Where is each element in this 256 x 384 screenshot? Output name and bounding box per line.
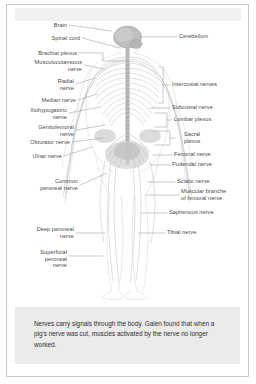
label-common-peroneal-nerve: Common peroneal nerve: [7, 178, 78, 191]
label-obturator-nerve: Obturator nerve: [7, 139, 70, 146]
caption-text: Nerves carry signals through the body. G…: [34, 319, 224, 350]
leader-radial: [76, 78, 95, 84]
leader-brain: [69, 25, 112, 31]
label-saphenous-nerve: Saphenous nerve: [169, 209, 247, 216]
bracket-lumbar: [155, 113, 172, 127]
label-musculocutaneous-nerve: Musculocutaneous nerve: [7, 59, 82, 72]
label-muscular-branch-of-femoral-nerve: Muscular branche of femoral nerve: [181, 188, 251, 201]
label-genitofemoral-nerve: Genitofemoral nerve: [7, 124, 74, 137]
label-spinal-cord: Spinal cord: [7, 35, 80, 42]
label-sacral-plexus: Sacral plexus: [184, 131, 234, 144]
label-brachial-plexus: Brachial plexus: [7, 50, 77, 57]
label-lumbar-plexus: Lumbar plexus: [174, 116, 244, 123]
label-median-nerve: Median nerve: [7, 97, 76, 104]
label-iliohypogastric-nerve: Iliohypogastric nerve: [7, 107, 67, 120]
label-cerebellum: Cerebellum: [179, 33, 247, 40]
leader-iliohypogastric: [69, 107, 100, 113]
nervous-system-diagram: Brain Spinal cord Brachial plexus Muscul…: [7, 5, 248, 303]
label-deep-peroneal-nerve: Deep peroneal nerve: [7, 226, 74, 239]
leader-ulnar: [64, 147, 92, 156]
label-radial-nerve: Radial nerve: [7, 78, 74, 91]
label-sciatic-nerve: Sciatic nerve: [177, 178, 244, 185]
label-superficial-peroneal-nerve: Superficial peroneal nerve: [7, 249, 67, 269]
leader-spinal-cord: [82, 38, 120, 48]
label-brain: Brain: [7, 22, 67, 29]
leader-median: [78, 94, 97, 100]
label-intercostal-nerves: Intercostal nerves: [172, 81, 248, 88]
bracket-intercostal: [159, 67, 170, 103]
label-tibial-nerve: Tibial nerve: [167, 229, 231, 236]
label-femoral-nerve: Femoral nerve: [174, 151, 244, 158]
caption-box: Nerves carry signals through the body. G…: [15, 307, 240, 364]
label-ulnar-nerve: Ulnar nerve: [7, 153, 62, 160]
label-subcostal-nerve: Subcostal nerve: [172, 104, 244, 111]
leader-common-peroneal: [80, 173, 107, 185]
bracket-sacral: [155, 131, 175, 145]
leader-genitofemoral: [76, 125, 105, 130]
leader-musculocutaneous: [84, 65, 104, 69]
leader-brachial-plexus: [79, 53, 125, 61]
label-pudendal-nerve: Pudendal nerve: [172, 161, 246, 168]
leader-obturator: [72, 138, 103, 142]
figure-frame: Brain Spinal cord Brachial plexus Muscul…: [6, 4, 249, 377]
